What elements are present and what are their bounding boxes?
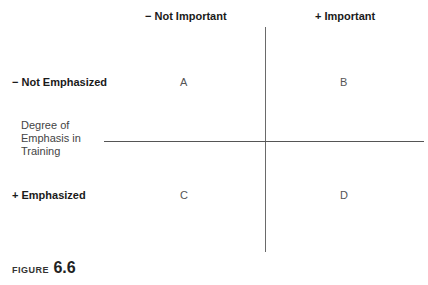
horizontal-axis-line — [104, 141, 424, 142]
vertical-axis-line — [265, 27, 266, 252]
column-header-not-important: − Not Important — [145, 10, 227, 22]
figure-number: 6.6 — [53, 259, 75, 276]
column-header-important: + Important — [315, 10, 375, 22]
figure-label: FIGURE — [12, 265, 49, 275]
quadrant-a: A — [180, 76, 187, 88]
quadrant-d: D — [340, 189, 348, 201]
quadrant-b: B — [340, 76, 347, 88]
row-header-emphasized: + Emphasized — [12, 189, 86, 201]
row-header-not-emphasized: − Not Emphasized — [12, 76, 107, 88]
axis-label-degree-of-emphasis: Degree of Emphasis in Training — [21, 119, 111, 158]
figure-caption: FIGURE 6.6 — [12, 259, 76, 277]
quadrant-c: C — [180, 189, 188, 201]
